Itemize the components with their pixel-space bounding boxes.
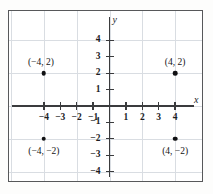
data-point — [42, 137, 47, 142]
y-axis-tick-label: 4 — [96, 36, 101, 46]
coordinate-plane-figure: −4−3−2−112344321−1−2−3−4 x y (−4, 2)(4, … — [0, 0, 213, 194]
y-axis-tick — [106, 138, 114, 139]
y-axis-tick — [106, 155, 114, 156]
x-axis-line — [12, 105, 194, 107]
x-axis-tick — [174, 102, 175, 110]
y-axis-tick — [106, 171, 114, 172]
data-point-label: (−4, 2) — [28, 58, 54, 68]
x-axis-tick-label: −3 — [55, 113, 65, 123]
x-axis-tick — [142, 102, 143, 110]
x-axis-tick-label: 4 — [173, 113, 178, 123]
data-point — [42, 71, 47, 76]
x-axis-tick-label: 3 — [156, 113, 161, 123]
x-axis-tick-label: −2 — [72, 113, 82, 123]
grid-line-vertical — [11, 11, 12, 181]
x-axis-tick — [158, 102, 159, 110]
y-axis-tick-label: −3 — [90, 150, 100, 160]
y-axis-tick-label: 3 — [96, 52, 101, 62]
y-axis-tick — [106, 73, 114, 74]
y-axis-tick-label: −4 — [90, 167, 100, 177]
data-point-label: (4, −2) — [162, 147, 188, 157]
x-axis-tick — [60, 102, 61, 110]
y-axis-tick — [106, 122, 114, 123]
grid-line-vertical — [142, 11, 143, 181]
data-point-label: (−4, −2) — [28, 147, 59, 157]
data-point-label: (4, 2) — [165, 58, 186, 68]
x-axis-tick-label: 1 — [124, 113, 129, 123]
x-axis-label: x — [194, 95, 198, 105]
plot-frame: −4−3−2−112344321−1−2−3−4 x y (−4, 2)(4, … — [8, 10, 203, 182]
x-axis-tick — [92, 102, 93, 110]
y-axis-tick-label: −1 — [90, 118, 100, 128]
y-axis-tick — [106, 89, 114, 90]
y-axis-tick — [106, 56, 114, 57]
x-axis-tick — [125, 102, 126, 110]
y-axis-tick-label: −2 — [90, 134, 100, 144]
x-axis-tick — [43, 102, 44, 110]
x-axis-tick-label: −4 — [39, 113, 49, 123]
grid-line-vertical — [77, 11, 78, 181]
y-axis-tick — [106, 40, 114, 41]
data-point — [173, 71, 178, 76]
data-point — [173, 137, 178, 142]
y-axis-tick-label: 2 — [96, 68, 101, 78]
y-axis-label: y — [113, 15, 117, 25]
x-axis-tick — [76, 102, 77, 110]
x-axis-tick-label: 2 — [140, 113, 145, 123]
y-axis-tick-label: 1 — [96, 85, 101, 95]
